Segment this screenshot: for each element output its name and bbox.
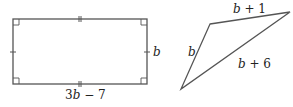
right-angle-mark bbox=[13, 19, 19, 25]
right-angle-mark bbox=[141, 78, 147, 84]
figure-canvas: b 3b − 7 b + 1 b b + 6 bbox=[0, 0, 293, 107]
right-angle-mark bbox=[141, 19, 147, 25]
triangle-top-label: b + 1 bbox=[233, 2, 266, 16]
triangle: b + 1 b b + 6 bbox=[181, 2, 290, 89]
triangle-long-label: b + 6 bbox=[238, 57, 271, 71]
rect-bottom-label: 3b − 7 bbox=[65, 88, 106, 102]
right-angle-mark bbox=[13, 78, 19, 84]
triangle-left-label: b bbox=[188, 45, 196, 59]
rect-side-label: b bbox=[153, 45, 161, 59]
rectangle: b 3b − 7 bbox=[10, 16, 161, 102]
